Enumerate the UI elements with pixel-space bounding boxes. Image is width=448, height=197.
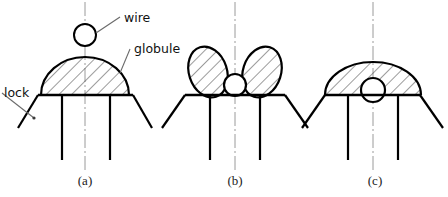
small-circle-b	[224, 74, 246, 96]
caption-c: (c)	[368, 173, 382, 188]
caption-a: (a)	[78, 173, 92, 188]
small-circle-c	[361, 78, 385, 102]
lock-label: lock	[4, 85, 30, 100]
welding-globule-stages-diagram: (a) (b) (c) wire	[0, 0, 448, 197]
wire-label: wire	[124, 10, 151, 25]
lock-leader-dot	[32, 116, 35, 119]
globule-label: globule	[134, 41, 180, 56]
wire-circle-a	[74, 24, 96, 46]
caption-b: (b)	[227, 173, 242, 188]
